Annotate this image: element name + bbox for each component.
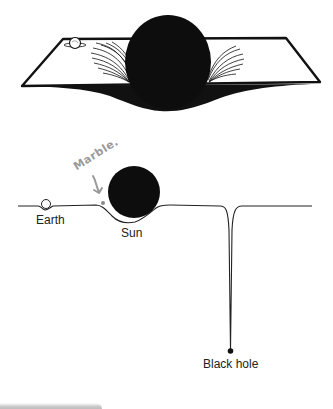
sun-label: Sun [121,226,142,240]
black-hole-point [228,348,234,354]
spacetime-diagram [0,0,333,409]
earth-ball [42,200,51,209]
earth-label: Earth [36,213,65,227]
black-hole-label: Black hole [203,357,258,371]
marble-dot [101,201,105,205]
sun-ball [108,166,160,218]
bottom-panel [18,166,312,354]
top-panel [22,15,320,111]
scan-edge-artifact [0,403,102,409]
sun-sphere [125,15,211,109]
marble-arrow-icon [93,176,102,193]
